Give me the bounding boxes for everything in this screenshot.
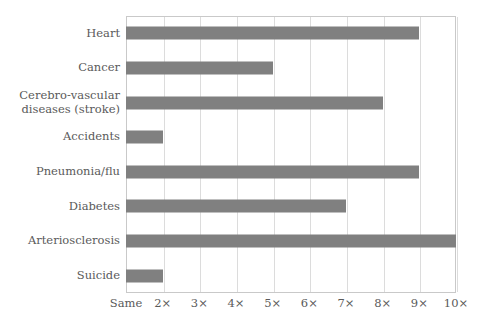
bar-row [126, 16, 456, 51]
x-tick-label: 9× [411, 296, 428, 311]
category-label: Diabetes [0, 200, 120, 214]
bars-layer [126, 16, 456, 293]
x-tick-label: 8× [374, 296, 391, 311]
category-label: Suicide [0, 269, 120, 283]
bar-row [126, 155, 456, 190]
x-tick-label: 6× [301, 296, 318, 311]
x-tick-label: 2× [154, 296, 171, 311]
category-label: Cerebro-vascular diseases (stroke) [0, 89, 120, 116]
x-tick-label: 3× [191, 296, 208, 311]
bar-row [126, 224, 456, 259]
bar-row [126, 258, 456, 293]
x-tick-label: 10× [444, 296, 468, 311]
x-tick-label: 5× [264, 296, 281, 311]
category-label: Heart [0, 27, 120, 41]
x-tick-label: 7× [338, 296, 355, 311]
category-label: Arteriosclerosis [0, 234, 120, 248]
gridline [457, 17, 458, 292]
bar [126, 96, 383, 109]
bar-row [126, 85, 456, 120]
bar [126, 61, 273, 74]
bar [126, 269, 163, 282]
bar [126, 235, 456, 248]
x-axis-tick-labels: Same2×3×4×5×6×7×8×9×10× [0, 296, 479, 316]
category-label: Cancer [0, 61, 120, 75]
bar-chart: HeartCancerCerebro-vascular diseases (st… [0, 0, 479, 335]
bar [126, 165, 419, 178]
bar [126, 27, 419, 40]
category-labels: HeartCancerCerebro-vascular diseases (st… [0, 16, 120, 293]
category-label: Pneumonia/flu [0, 165, 120, 179]
bar [126, 131, 163, 144]
bar-row [126, 189, 456, 224]
bar-row [126, 120, 456, 155]
category-label: Accidents [0, 130, 120, 144]
x-tick-label: Same [110, 296, 142, 311]
bar [126, 200, 346, 213]
x-tick-label: 4× [228, 296, 245, 311]
bar-row [126, 51, 456, 86]
